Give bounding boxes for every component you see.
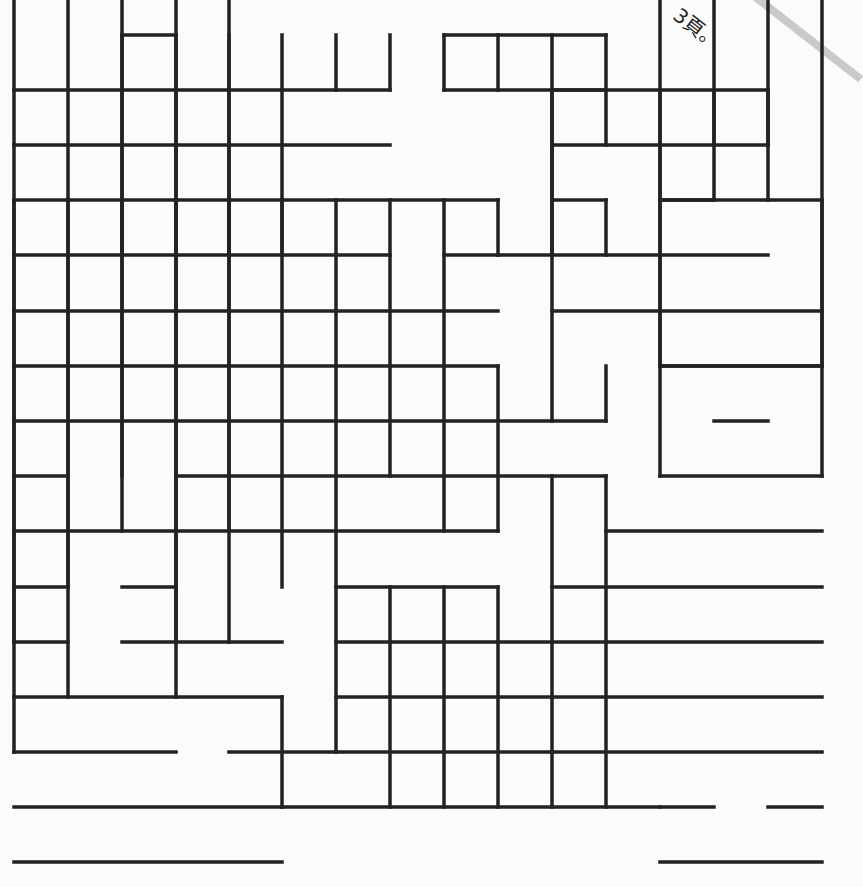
maze-grid [0, 0, 834, 887]
